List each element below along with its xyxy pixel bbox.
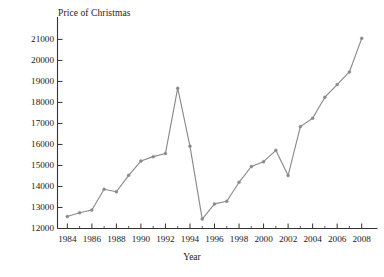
chart-axes (58, 17, 378, 229)
x-axis-label: Year (0, 252, 384, 262)
line-chart-plot (0, 0, 384, 277)
chart-container: Price of Christmas 120001300014000150001… (0, 0, 384, 277)
chart-series-price-of-christmas (66, 37, 363, 221)
